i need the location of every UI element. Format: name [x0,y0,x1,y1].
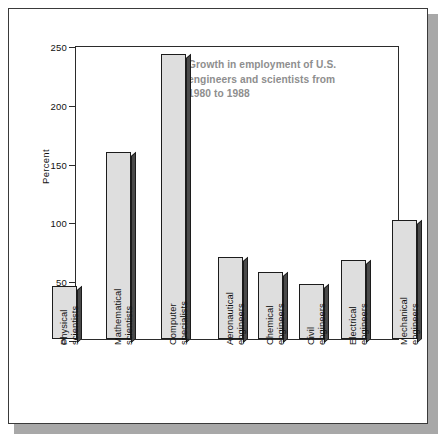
y-axis-tick [69,47,76,48]
bar-computer-specialists[interactable] [161,54,186,339]
y-axis-label: Percent [40,149,51,184]
x-axis-label-electrical-engineers: Electricalengineers [348,303,369,345]
x-axis-label-line: Civil [306,303,317,345]
x-axis-label-line: engineers [236,292,247,345]
x-axis-label-aeronautical-engineers: Aeronauticalengineers [225,292,246,345]
x-axis-label-computer-specialists: Computerspecialists [168,301,189,345]
x-axis-label-mathematical-scientists: Mathematicalscientists [113,289,134,346]
x-axis-label-line: Mathematical [113,289,124,346]
x-axis-label-line: Mechanical [399,297,410,345]
x-axis-label-line: engineers [410,297,421,345]
chart-frame: Percent Growth in employment of U.S. eng… [8,8,428,424]
chart-page: Percent Growth in employment of U.S. eng… [0,0,444,448]
y-axis-tick [69,106,76,107]
y-axis-tick-label: 250 [51,42,67,53]
x-axis-label-line: Chemical [265,303,276,345]
x-axis-label-line: engineers [359,303,370,345]
x-axis-label-line: Aeronautical [225,292,236,345]
y-axis-tick [69,282,76,283]
x-axis-label-line: scientists [70,306,81,345]
y-axis-tick-label: 150 [51,159,67,170]
bar-side-face [186,54,191,343]
x-axis-label-chemical-engineers: Chemicalengineers [265,303,286,345]
x-axis-label-line: engineers [276,303,287,345]
x-axis-label-line: specialists [179,301,190,345]
x-axis-label-line: engineers [317,303,328,345]
x-axis-label-civil-engineers: Civilengineers [306,303,327,345]
y-axis-tick-label: 100 [51,218,67,229]
x-axis-label-line: scientists [124,289,135,346]
y-axis-tick [69,223,76,224]
bar-body [161,54,186,339]
x-axis-label-line: Physical [59,306,70,345]
y-axis-tick [69,165,76,166]
x-axis-label-line: Electrical [348,303,359,345]
x-axis-label-physical-scientists: Physicalscientists [59,306,80,345]
x-axis-label-line: Computer [168,301,179,345]
x-axis-label-mechanical-engineers: Mechanicalengineers [399,297,420,345]
y-axis-tick-label: 200 [51,100,67,111]
